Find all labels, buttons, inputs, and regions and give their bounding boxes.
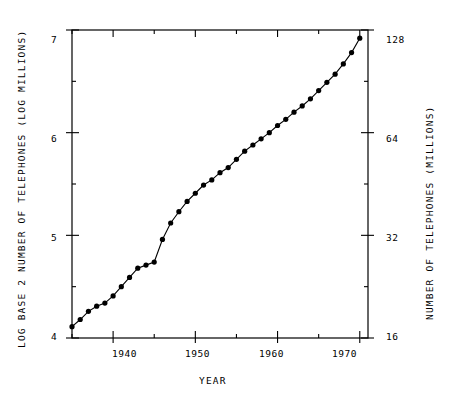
data-point [69, 324, 74, 329]
data-point [185, 199, 190, 204]
data-point [217, 170, 222, 175]
data-point [119, 284, 124, 289]
data-point [316, 88, 321, 93]
data-point [357, 36, 362, 41]
data-point [234, 157, 239, 162]
data-point [102, 300, 107, 305]
data-series-line [72, 38, 360, 327]
data-point [267, 130, 272, 135]
data-point [349, 50, 354, 55]
data-point [333, 72, 338, 77]
plot-canvas [0, 0, 449, 413]
data-point [135, 266, 140, 271]
data-point [143, 263, 148, 268]
data-point [242, 149, 247, 154]
data-point [201, 182, 206, 187]
data-point [291, 110, 296, 115]
chart-figure: LOG BASE 2 NUMBER OF TELEPHONES (LOG MIL… [0, 0, 449, 413]
data-point [160, 237, 165, 242]
data-point [341, 61, 346, 66]
data-point [78, 317, 83, 322]
data-point [193, 191, 198, 196]
data-point [94, 304, 99, 309]
data-point [283, 117, 288, 122]
data-point [250, 142, 255, 147]
data-point [259, 136, 264, 141]
data-point [226, 165, 231, 170]
data-series-points [69, 36, 362, 330]
data-point [86, 309, 91, 314]
data-point [111, 293, 116, 298]
data-point [152, 259, 157, 264]
data-point [300, 103, 305, 108]
data-point [324, 80, 329, 85]
data-point [275, 123, 280, 128]
data-point [168, 220, 173, 225]
data-point [209, 177, 214, 182]
data-point [308, 96, 313, 101]
data-point [176, 209, 181, 214]
data-point [127, 275, 132, 280]
